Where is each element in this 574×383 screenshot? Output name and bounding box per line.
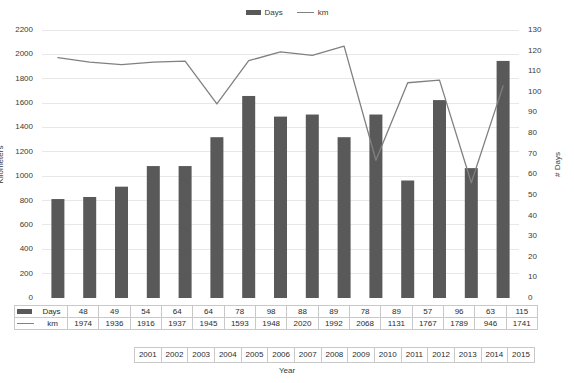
legend-label-days: Days [265,8,283,17]
table-row-km-key: km [15,318,68,330]
year-cell-2009: 2009 [348,348,375,363]
year-cell-2004: 2004 [214,348,241,363]
y-tick-right: 120 [528,46,541,56]
y-tick-right: 60 [528,169,537,179]
days-cell-2003: 54 [130,306,161,318]
km-cell-2008: 2020 [287,318,318,330]
y-tick-right: 110 [528,66,541,76]
chart-legend: Days km [0,8,574,17]
bar-swatch-icon [246,10,261,15]
y-tick-right: 100 [528,87,541,97]
bar-2003 [115,187,128,298]
bar-2005 [179,166,192,298]
y-tick-right: 0 [528,293,532,303]
days-cell-2002: 49 [99,306,130,318]
y-tick-right: 20 [528,252,537,262]
year-cell-2005: 2005 [241,348,268,363]
bar-2014 [465,168,478,298]
y-tick-right: 40 [528,211,537,221]
year-cell-2008: 2008 [321,348,348,363]
days-cell-2004: 64 [161,306,192,318]
days-cell-2015: 115 [506,306,537,318]
days-cell-2001: 48 [68,306,99,318]
series-data-table: Days 4849546464789888897889579663115 km … [14,305,538,330]
bar-2008 [274,117,287,298]
bar-2004 [147,166,160,298]
year-cell-2013: 2013 [454,348,481,363]
km-cell-2004: 1937 [161,318,192,330]
days-cell-2013: 96 [443,306,474,318]
year-cell-2012: 2012 [428,348,455,363]
km-cell-2006: 1593 [224,318,255,330]
year-cell-2006: 2006 [268,348,295,363]
days-cell-2012: 57 [412,306,443,318]
year-cell-2003: 2003 [188,348,215,363]
bar-2002 [83,197,96,298]
days-cell-2008: 88 [287,306,318,318]
y-axis-left-ticks: 2200200018001600140012001000800600400200… [0,30,38,298]
y-tick-left: 600 [20,220,33,230]
days-cell-2005: 64 [193,306,224,318]
chart-container: Days km 22002000180016001400120010008006… [0,0,574,383]
plot-area [42,30,519,298]
year-cell-2011: 2011 [401,348,428,363]
km-cell-2009: 1992 [318,318,349,330]
bar-2007 [242,96,255,298]
bar-2010 [338,137,351,298]
days-cell-2009: 89 [318,306,349,318]
legend-item-days: Days [246,8,283,17]
year-cell-2001: 2001 [135,348,162,363]
y-tick-right: 70 [528,149,537,159]
line-swatch-icon [17,323,34,324]
bar-2006 [210,137,223,298]
y-tick-right: 50 [528,190,537,200]
table-row-km-label: km [38,318,67,329]
y-axis-right-title: # Days [553,152,562,177]
bar-2001 [51,199,64,298]
km-cell-2007: 1948 [255,318,286,330]
y-tick-left: 1800 [15,74,33,84]
table-row-days: Days 4849546464789888897889579663115 [15,306,538,318]
legend-label-km: km [318,8,329,17]
km-cell-2005: 1945 [193,318,224,330]
y-tick-left: 2000 [15,49,33,59]
y-tick-left: 400 [20,244,33,254]
bar-2009 [306,115,319,298]
km-cell-2013: 1789 [443,318,474,330]
y-tick-left: 800 [20,196,33,206]
y-tick-left: 1400 [15,122,33,132]
days-cell-2006: 78 [224,306,255,318]
table-row-km: km 1974193619161937194515931948202019922… [15,318,538,330]
legend-item-km: km [297,8,329,17]
bar-2012 [401,180,414,298]
y-tick-left: 200 [20,269,33,279]
year-cell-2014: 2014 [481,348,508,363]
year-axis-table: 2001200220032004200520062007200820092010… [134,347,535,363]
days-cell-2007: 98 [255,306,286,318]
y-tick-left: 0 [29,293,33,303]
table-row-days-label: Days [36,306,67,317]
bar-2015 [497,61,510,298]
table-row-years: 2001200220032004200520062007200820092010… [135,348,535,363]
x-axis-title: Year [0,366,574,375]
days-cell-2011: 89 [381,306,412,318]
year-cell-2002: 2002 [161,348,188,363]
line-swatch-icon [297,12,314,13]
y-tick-left: 1200 [15,147,33,157]
km-cell-2012: 1767 [412,318,443,330]
year-cell-2010: 2010 [374,348,401,363]
y-tick-right: 80 [528,128,537,138]
km-cell-2015: 1741 [506,318,537,330]
y-tick-right: 30 [528,231,537,241]
y-tick-right: 130 [528,25,541,35]
km-cell-2010: 2068 [349,318,380,330]
km-cell-2014: 946 [475,318,506,330]
y-tick-right: 10 [528,272,537,282]
y-tick-left: 2200 [15,25,33,35]
km-cell-2002: 1936 [99,318,130,330]
year-cell-2015: 2015 [508,348,535,363]
km-cell-2011: 1131 [381,318,412,330]
days-cell-2014: 63 [475,306,506,318]
days-cell-2010: 78 [349,306,380,318]
y-tick-right: 90 [528,107,537,117]
